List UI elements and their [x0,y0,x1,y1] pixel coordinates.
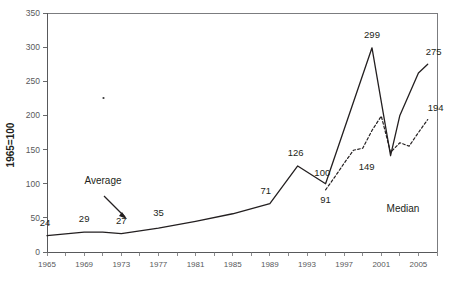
x-tick-label: 1985 [224,260,242,269]
y-tick-label: 200 [26,110,40,120]
series-line-average [47,48,428,236]
plot-frame [47,13,437,252]
point-label-24: 24 [40,217,51,228]
average-annotation: Average [84,175,127,219]
point-label-91: 91 [320,194,331,205]
x-tick-label: 1965 [38,260,56,269]
point-label-299: 299 [364,29,380,40]
y-tick-label: 100 [26,179,40,189]
stray-dot-artifact [102,97,104,99]
y-axis-title: 1965=100 [5,122,16,167]
x-tick-label: 1997 [335,260,353,269]
y-tick-label: 250 [26,76,40,86]
x-tick-label: 1973 [112,260,130,269]
y-tick-label: 300 [26,42,40,52]
line-chart: 050100150200250300350 196519691973197719… [0,0,457,289]
point-label-194: 194 [428,102,444,113]
point-label-29: 29 [79,213,90,224]
median-label: Median [387,203,420,214]
y-tick-label: 350 [26,8,40,18]
chart-container: 050100150200250300350 196519691973197719… [0,0,457,289]
average-label: Average [84,175,122,186]
x-tick-label: 1981 [187,260,205,269]
x-tick-label: 2005 [410,260,428,269]
x-axis-labels: 1965196919731977198119851989199319972001… [38,260,428,269]
point-label-100: 100 [314,167,330,178]
x-tick-label: 1977 [150,260,168,269]
point-label-149: 149 [359,161,375,172]
x-tick-label: 2001 [372,260,390,269]
data-point-labels: 242927357112610091299149275194 [40,29,444,228]
point-label-71: 71 [261,185,272,196]
y-tick-label: 150 [26,145,40,155]
data-series-group [47,48,428,236]
point-label-35: 35 [153,207,164,218]
series-line-median [326,116,428,190]
x-tick-label: 1993 [298,260,316,269]
x-tick-label: 1969 [75,260,93,269]
y-tick-label: 0 [35,247,40,257]
x-axis-ticks [47,252,437,256]
x-tick-label: 1989 [261,260,279,269]
point-label-126: 126 [288,147,304,158]
point-label-275: 275 [426,46,442,57]
